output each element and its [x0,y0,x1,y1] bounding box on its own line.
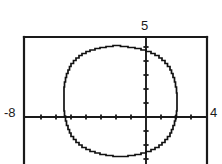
circle-curve [64,46,177,157]
x-axis [25,114,206,119]
y-axis [143,38,148,164]
x-min-label: -8 [4,106,16,119]
x-max-label: 4 [210,106,217,119]
calculator-screen: 5 -8 4 [0,0,222,164]
graph-plot-area [0,0,222,164]
plot-frame [24,37,207,164]
y-max-label: 5 [141,19,148,32]
